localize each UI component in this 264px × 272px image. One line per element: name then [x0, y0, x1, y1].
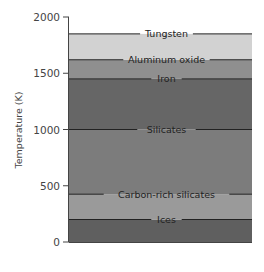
- tick-label: 1500: [33, 67, 60, 79]
- line-label: Ices: [157, 214, 176, 225]
- band-iron: [69, 79, 252, 130]
- tick-label: 500: [40, 180, 60, 192]
- line-label: Silicates: [147, 124, 187, 135]
- tick-label: 2000: [33, 11, 60, 23]
- tick-label: 1000: [33, 124, 60, 136]
- line-label: Tungsten: [144, 28, 188, 39]
- line-label: Aluminum oxide: [128, 54, 205, 65]
- band-silicates: [69, 130, 252, 195]
- line-label: Carbon-rich silicates: [118, 189, 215, 200]
- line-label: Iron: [157, 73, 175, 84]
- tick-label: 0: [53, 236, 60, 248]
- condensation-temperature-chart: TungstenAluminum oxideIronSilicatesCarbo…: [0, 0, 264, 272]
- y-axis-label: Temperature (K): [13, 92, 24, 170]
